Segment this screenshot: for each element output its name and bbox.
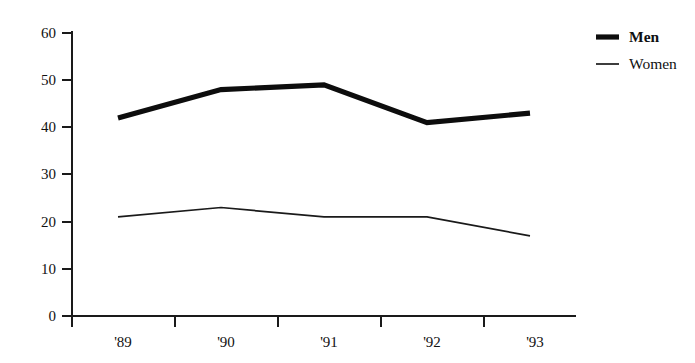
x-tick-label-92: '92: [423, 334, 441, 350]
x-tick-label-93: '93: [526, 334, 544, 350]
x-axis: '89 '90 '91 '92 '93: [72, 316, 576, 350]
line-chart: 60 50 40 30 20 10 0 '89 '90 '91: [0, 0, 695, 363]
plot-series: [118, 85, 530, 236]
chart-canvas: 60 50 40 30 20 10 0 '89 '90 '91: [0, 0, 695, 363]
y-tick-label-40: 40: [41, 119, 56, 135]
legend-item-men[interactable]: Men: [596, 28, 660, 45]
y-axis-ticks: [62, 33, 72, 316]
x-tick-label-89: '89: [114, 334, 132, 350]
legend-label-men: Men: [629, 28, 660, 45]
series-line-men: [118, 85, 530, 123]
legend-item-women[interactable]: Women: [596, 55, 677, 72]
x-axis-tick-labels: '89 '90 '91 '92 '93: [114, 334, 544, 350]
y-axis: 60 50 40 30 20 10 0: [41, 25, 72, 324]
y-tick-label-10: 10: [41, 261, 56, 277]
series-line-women: [118, 208, 530, 236]
y-tick-label-50: 50: [41, 72, 56, 88]
y-axis-tick-labels: 60 50 40 30 20 10 0: [41, 25, 56, 324]
y-tick-label-60: 60: [41, 25, 56, 41]
x-tick-label-90: '90: [217, 334, 235, 350]
chart-legend: Men Women: [596, 28, 677, 72]
x-axis-ticks: [72, 316, 484, 327]
legend-label-women: Women: [629, 55, 677, 72]
y-tick-label-20: 20: [41, 214, 56, 230]
y-tick-label-0: 0: [49, 308, 57, 324]
x-tick-label-91: '91: [320, 334, 338, 350]
y-tick-label-30: 30: [41, 166, 56, 182]
